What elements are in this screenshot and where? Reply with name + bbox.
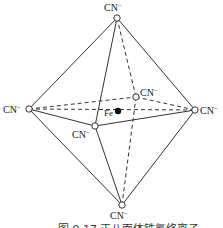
vertex-back	[133, 94, 139, 100]
vertex-top	[114, 15, 120, 21]
vertex-right	[192, 107, 198, 113]
figure-caption: 图 9.17 正八面体铁氰络离子	[58, 222, 200, 228]
label-top: CN−	[104, 2, 122, 13]
label-bottom: CN−	[110, 210, 128, 221]
label-fe: Fe	[104, 108, 113, 118]
vertex-bottom	[119, 202, 125, 208]
label-right: CN−	[200, 105, 218, 116]
vertex-front	[92, 123, 98, 129]
label-back: CN−	[140, 87, 158, 98]
fe-center-atom	[115, 108, 121, 114]
octahedron-diagram: CN− CN− CN− CN− CN− CN− Fe 图 9.17 正八面体铁氰…	[0, 0, 223, 228]
label-left: CN−	[3, 104, 21, 115]
vertex-left	[26, 106, 32, 112]
label-front: CN−	[72, 129, 90, 140]
